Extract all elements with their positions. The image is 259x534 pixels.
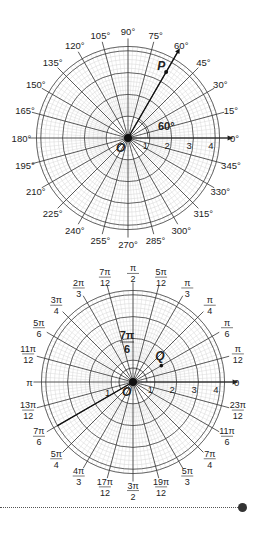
svg-text:5π: 5π	[51, 449, 62, 459]
point-q-label: Q	[155, 349, 165, 363]
svg-text:4: 4	[207, 460, 212, 470]
svg-text:2: 2	[130, 274, 135, 284]
svg-text:11π: 11π	[20, 344, 36, 354]
origin-label: O	[122, 385, 132, 399]
svg-text:19π: 19π	[153, 477, 169, 487]
angle-annotation: 7π6	[120, 329, 135, 355]
svg-text:12: 12	[156, 488, 166, 498]
svg-text:7π: 7π	[33, 426, 44, 436]
polar-grid-radians: 12340π12π6π4π35π12π27π122π33π45π611π12π1…	[0, 0, 259, 534]
svg-text:6: 6	[124, 343, 130, 355]
svg-text:12: 12	[156, 278, 166, 288]
ring-label: 4	[213, 384, 218, 395]
angle-label: 7π12	[99, 267, 111, 288]
angle-label: 0	[234, 377, 239, 388]
svg-text:4: 4	[54, 460, 59, 470]
svg-text:23π: 23π	[230, 400, 246, 410]
angle-label: 2π3	[73, 278, 85, 299]
angle-label: 3π2	[127, 481, 139, 502]
angle-label: π	[26, 377, 33, 388]
svg-text:4π: 4π	[73, 466, 84, 476]
angle-label: π3	[181, 278, 193, 299]
ring-label: 3	[191, 384, 196, 395]
angle-label: 7π4	[204, 449, 216, 470]
svg-text:π: π	[26, 377, 33, 388]
svg-text:3π: 3π	[51, 295, 62, 305]
svg-text:π: π	[207, 295, 213, 305]
svg-text:0: 0	[234, 377, 239, 388]
svg-text:3π: 3π	[127, 481, 138, 491]
svg-text:12: 12	[23, 411, 33, 421]
svg-text:5π: 5π	[155, 267, 166, 277]
svg-text:2: 2	[130, 492, 135, 502]
angle-label: 7π6	[33, 426, 45, 447]
svg-text:12: 12	[233, 355, 243, 365]
svg-text:4: 4	[207, 306, 212, 316]
svg-text:13π: 13π	[20, 400, 36, 410]
ray-small-label: 1	[105, 387, 110, 398]
svg-text:12: 12	[233, 411, 243, 421]
svg-text:12: 12	[100, 488, 110, 498]
svg-text:17π: 17π	[97, 477, 113, 487]
bullet-marker-icon	[238, 503, 247, 512]
angle-label: π12	[232, 344, 244, 365]
svg-text:π: π	[130, 263, 136, 273]
svg-text:6: 6	[36, 437, 41, 447]
angle-label: 5π6	[33, 318, 45, 339]
svg-text:12: 12	[23, 355, 33, 365]
angle-label: 5π3	[181, 466, 193, 487]
angle-label: 11π6	[219, 426, 235, 447]
ring-label: 1	[148, 384, 153, 395]
svg-text:4: 4	[54, 306, 59, 316]
angle-label: 4π3	[73, 466, 85, 487]
angle-label: π6	[221, 318, 233, 339]
svg-text:π: π	[235, 344, 241, 354]
svg-text:3: 3	[185, 477, 190, 487]
svg-text:12: 12	[100, 278, 110, 288]
svg-text:3: 3	[76, 289, 81, 299]
angle-label: π4	[204, 295, 216, 316]
svg-text:6: 6	[36, 329, 41, 339]
svg-text:6: 6	[225, 437, 230, 447]
angle-label: 13π12	[20, 400, 36, 421]
dotted-divider	[0, 507, 242, 508]
angle-label: 23π12	[230, 400, 246, 421]
angle-label: 17π12	[97, 477, 113, 498]
svg-text:11π: 11π	[219, 426, 235, 436]
angle-label: 5π12	[155, 267, 167, 288]
svg-text:6: 6	[225, 329, 230, 339]
angle-label: 5π4	[50, 449, 62, 470]
ring-label: 2	[170, 384, 175, 395]
angle-label: π2	[127, 263, 139, 284]
angle-label: 3π4	[50, 295, 62, 316]
svg-text:7π: 7π	[204, 449, 215, 459]
svg-text:3: 3	[76, 477, 81, 487]
svg-text:7π: 7π	[120, 329, 135, 341]
svg-text:3: 3	[185, 289, 190, 299]
svg-text:5π: 5π	[33, 318, 44, 328]
svg-text:7π: 7π	[99, 267, 110, 277]
svg-text:5π: 5π	[182, 466, 193, 476]
svg-text:π: π	[224, 318, 230, 328]
angle-label: 11π12	[20, 344, 36, 365]
point-q-marker	[160, 364, 164, 368]
svg-text:π: π	[184, 278, 190, 288]
angle-label: 19π12	[153, 477, 169, 498]
svg-text:2π: 2π	[73, 278, 84, 288]
